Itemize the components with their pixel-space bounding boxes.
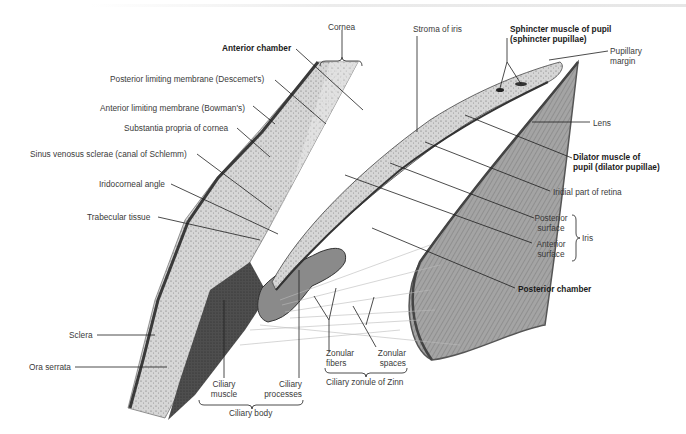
label-zonular-fibers: Zonular fibers (326, 348, 354, 368)
label-pupillary-line2: margin (610, 56, 642, 66)
label-zonular-fibers-line2: fibers (326, 358, 354, 368)
label-ciliary-processes: Ciliary processes (258, 379, 302, 399)
label-descemet-membrane: Posterior limiting membrane (Descemet's) (110, 74, 264, 84)
label-cornea: Cornea (328, 22, 355, 32)
label-sphincter-muscle: Sphincter muscle of pupil (sphincter pup… (510, 24, 611, 44)
label-stroma-of-iris: Stroma of iris (413, 24, 462, 34)
label-anterior-surface-line2: surface (530, 249, 572, 259)
label-iridocorneal-angle: Iridocorneal angle (99, 179, 165, 189)
label-ciliary-muscle-line2: muscle (202, 389, 246, 399)
label-sclera: Sclera (69, 330, 93, 340)
label-anterior-surface-line1: Anterior (530, 239, 572, 249)
label-iris: Iris (582, 233, 593, 243)
label-ciliary-muscle: Ciliary muscle (202, 379, 246, 399)
label-lens: Lens (593, 118, 611, 128)
label-posterior-surface-line2: surface (530, 223, 572, 233)
label-canal-of-schlemm: Sinus venosus sclerae (canal of Schlemm) (30, 149, 187, 159)
label-dilator-muscle: Dilator muscle of pupil (dilator pupilla… (573, 152, 660, 172)
label-pupillary-margin: Pupillary margin (610, 46, 642, 66)
label-trabecular-tissue: Trabecular tissue (87, 212, 150, 222)
label-ciliary-body: Ciliary body (229, 408, 272, 418)
label-sphincter-line2: (sphincter pupillae) (510, 34, 611, 44)
label-ciliary-processes-line1: Ciliary (258, 379, 302, 389)
label-bowman-membrane: Anterior limiting membrane (Bowman's) (100, 103, 245, 113)
label-zonular-spaces-line1: Zonular (366, 348, 406, 358)
label-anterior-chamber: Anterior chamber (222, 43, 291, 53)
label-ora-serrata: Ora serrata (29, 362, 71, 372)
label-posterior-surface: Posterior surface (530, 213, 572, 233)
label-anterior-surface: Anterior surface (530, 239, 572, 259)
label-posterior-chamber: Posterior chamber (518, 284, 591, 294)
label-iridial-part-of-retina: Iridial part of retina (553, 187, 622, 197)
label-sphincter-line1: Sphincter muscle of pupil (510, 24, 611, 34)
label-dilator-line2: pupil (dilator pupillae) (573, 162, 660, 172)
label-zonular-spaces: Zonular spaces (366, 348, 406, 368)
label-dilator-line1: Dilator muscle of (573, 152, 660, 162)
label-pupillary-line1: Pupillary (610, 46, 642, 56)
label-ciliary-zonule-of-zinn: Ciliary zonule of Zinn (326, 377, 403, 387)
label-ciliary-muscle-line1: Ciliary (202, 379, 246, 389)
label-substantia-propria: Substantia propria of cornea (124, 123, 228, 133)
label-zonular-spaces-line2: spaces (366, 358, 406, 368)
eye-anatomy-figure: Cornea Anterior chamber Posterior limiti… (0, 0, 686, 434)
label-posterior-surface-line1: Posterior (530, 213, 572, 223)
label-ciliary-processes-line2: processes (258, 389, 302, 399)
label-zonular-fibers-line1: Zonular (326, 348, 354, 358)
